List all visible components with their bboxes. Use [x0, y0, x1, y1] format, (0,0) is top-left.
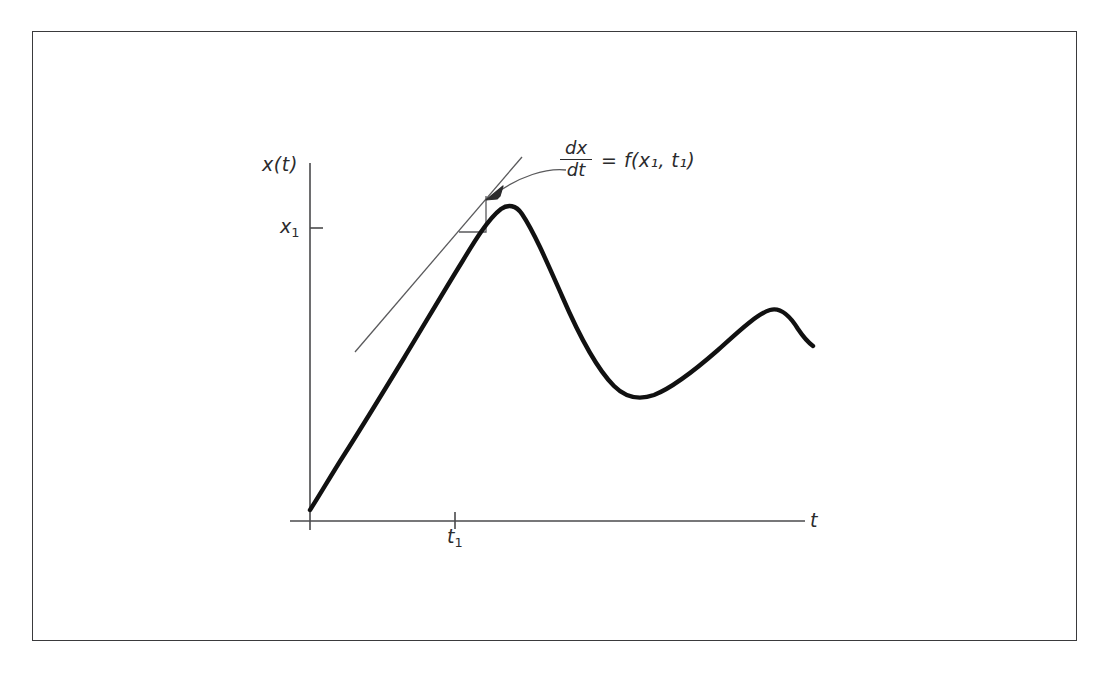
y-tick-label-subscript: 1 — [291, 225, 299, 240]
leader-arrowhead-icon — [486, 186, 503, 200]
y-axis-label: x(t) — [262, 155, 298, 174]
equals-sign: = — [601, 149, 617, 171]
formula-right-hand-side: f(x₁, t₁) — [624, 149, 695, 171]
x-tick-label-t1: t1 — [447, 527, 463, 550]
derivative-formula-annotation: dx dt = f(x₁, t₁) — [560, 139, 695, 180]
y-tick-label-base: x — [280, 215, 291, 237]
plot-canvas — [0, 0, 1109, 674]
curve-x-of-t — [310, 206, 813, 510]
fraction-denominator: dt — [564, 160, 588, 180]
x-tick-label-subscript: 1 — [454, 535, 462, 550]
figure-page: x(t) x1 t1 t dx dt = f(x₁, t₁) — [0, 0, 1109, 674]
fraction-dx-dt: dx dt — [560, 139, 592, 180]
leader-arrow-line — [495, 170, 566, 194]
y-tick-label-x1: x1 — [280, 217, 299, 240]
fraction-numerator: dx — [562, 139, 590, 159]
x-axis-label: t — [810, 511, 817, 530]
tangent-line — [355, 157, 522, 352]
